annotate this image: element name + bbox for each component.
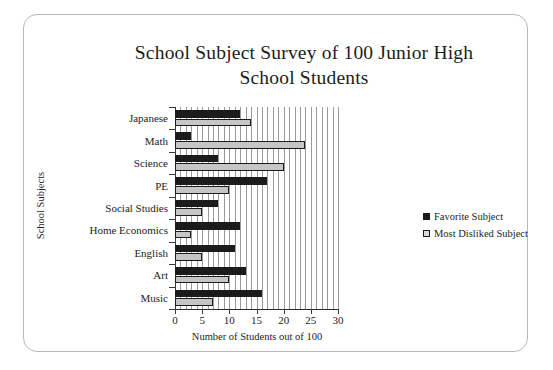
bar-group — [175, 129, 338, 151]
y-axis-tick — [169, 264, 175, 265]
y-axis-tick — [169, 197, 175, 198]
plot-area — [175, 107, 338, 309]
bar-most-disliked-subject — [175, 298, 213, 306]
x-axis-tick-label: 10 — [214, 314, 244, 326]
y-axis-label: Japanese — [68, 112, 168, 124]
x-axis-title: Number of Students out of 100 — [175, 331, 339, 342]
y-axis-label: Home Economics — [68, 224, 168, 236]
x-axis-tick-label: 0 — [160, 314, 190, 326]
y-axis-labels: JapaneseMathSciencePESocial StudiesHome … — [64, 107, 168, 309]
bar-favorite-subject — [175, 110, 240, 118]
legend-swatch-icon — [423, 213, 430, 220]
x-axis-tick-label: 20 — [269, 314, 299, 326]
bar-most-disliked-subject — [175, 208, 202, 216]
y-axis-label: PE — [68, 180, 168, 192]
bar-most-disliked-subject — [175, 253, 202, 261]
bar-most-disliked-subject — [175, 231, 191, 239]
y-axis-tick — [169, 219, 175, 220]
bar-favorite-subject — [175, 267, 246, 275]
x-axis-tick-label: 30 — [323, 314, 353, 326]
bar-favorite-subject — [175, 177, 267, 185]
bar-most-disliked-subject — [175, 186, 229, 194]
bar-group — [175, 287, 338, 309]
gridline — [338, 107, 339, 309]
chart-frame: School Subject Survey of 100 Junior High… — [23, 14, 528, 352]
y-axis-tick — [169, 107, 175, 108]
bar-favorite-subject — [175, 222, 240, 230]
bar-favorite-subject — [175, 245, 235, 253]
y-axis-tick — [169, 287, 175, 288]
legend-label: Most Disliked Subject — [434, 228, 528, 239]
bar-most-disliked-subject — [175, 141, 305, 149]
bar-favorite-subject — [175, 290, 262, 298]
bar-favorite-subject — [175, 132, 191, 140]
y-axis-label: Science — [68, 157, 168, 169]
y-axis-tick — [169, 152, 175, 153]
bar-group — [175, 219, 338, 241]
bar-group — [175, 107, 338, 129]
y-axis-tick — [169, 242, 175, 243]
y-axis-tick — [169, 174, 175, 175]
x-axis-tick-label: 5 — [187, 314, 217, 326]
chart-title-line-1: School Subject Survey of 100 Junior High — [135, 42, 473, 63]
y-axis-label: Social Studies — [68, 202, 168, 214]
bar-group — [175, 174, 338, 196]
legend-swatch-icon — [423, 230, 430, 237]
y-axis-label: English — [68, 247, 168, 259]
legend-item: Favorite Subject — [423, 211, 553, 222]
y-axis-title: School Subjects — [35, 161, 46, 251]
bar-group — [175, 242, 338, 264]
legend-label: Favorite Subject — [434, 211, 503, 222]
bar-most-disliked-subject — [175, 119, 251, 127]
x-axis-tick-label: 15 — [242, 314, 272, 326]
bar-most-disliked-subject — [175, 276, 229, 284]
y-axis-label: Math — [68, 135, 168, 147]
y-axis-label: Music — [68, 292, 168, 304]
chart-legend: Favorite SubjectMost Disliked Subject — [423, 211, 553, 245]
bar-group — [175, 197, 338, 219]
bar-favorite-subject — [175, 200, 218, 208]
bar-group — [175, 264, 338, 286]
bar-group — [175, 152, 338, 174]
y-axis-tick — [169, 129, 175, 130]
y-axis-label: Art — [68, 269, 168, 281]
chart-title: School Subject Survey of 100 Junior High… — [84, 40, 524, 90]
bar-favorite-subject — [175, 155, 218, 163]
chart-title-line-2: School Students — [239, 67, 368, 88]
x-axis-tick-label: 25 — [296, 314, 326, 326]
legend-item: Most Disliked Subject — [423, 228, 553, 239]
bar-most-disliked-subject — [175, 163, 284, 171]
